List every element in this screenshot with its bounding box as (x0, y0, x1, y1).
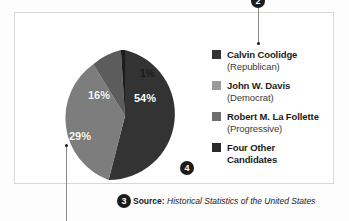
pie-graphic (57, 48, 193, 184)
legend-label-name: John W. Davis (227, 80, 344, 92)
callout-leader-line-bottom (66, 146, 67, 221)
legend-item-lafollette: Robert M. La Follette (Progressive) (212, 111, 344, 134)
callout-anchor-dot-2 (257, 42, 260, 45)
legend-label-name: Calvin Coolidge (227, 49, 344, 61)
pie-chart: 54% 16% 29% 1% (57, 48, 193, 184)
legend-label-party: (Democrat) (227, 92, 344, 104)
callout-badge-3: 3 (117, 194, 131, 208)
chart-frame: 54% 16% 29% 1% Calvin Coolidge (Republic… (14, 12, 334, 184)
callout-anchor-dot-bottom (65, 144, 68, 147)
legend-label-name-cont: Candidates (227, 154, 344, 166)
pie-label-coolidge: 54% (134, 92, 156, 104)
legend-label-name: Four Other (227, 142, 344, 154)
pie-label-lafollette: 16% (88, 89, 110, 101)
legend-item-other-candidates: Four Other Candidates (212, 142, 344, 165)
pie-label-other: 1% (140, 68, 154, 79)
source-note: Source: Historical Statistics of the Uni… (133, 196, 315, 206)
source-title: Historical Statistics of the United Stat… (167, 196, 315, 206)
source-label: Source: (133, 196, 165, 206)
callout-badge-4: 4 (180, 161, 194, 175)
callout-badge-2: 2 (251, 0, 265, 8)
figure-container: 54% 16% 29% 1% Calvin Coolidge (Republic… (0, 0, 349, 221)
legend-label-party: (Republican) (227, 61, 344, 73)
legend-item-davis: John W. Davis (Democrat) (212, 80, 344, 103)
pie-label-davis: 29% (69, 130, 91, 142)
legend-item-coolidge: Calvin Coolidge (Republican) (212, 49, 344, 72)
legend-swatch-icon (212, 50, 221, 59)
legend-swatch-icon (212, 143, 221, 152)
legend: Calvin Coolidge (Republican) John W. Dav… (212, 49, 344, 173)
legend-swatch-icon (212, 81, 221, 90)
callout-leader-line-2 (258, 8, 259, 44)
legend-label-party: (Progressive) (227, 123, 344, 135)
legend-label-name: Robert M. La Follette (227, 111, 344, 123)
legend-swatch-icon (212, 112, 221, 121)
